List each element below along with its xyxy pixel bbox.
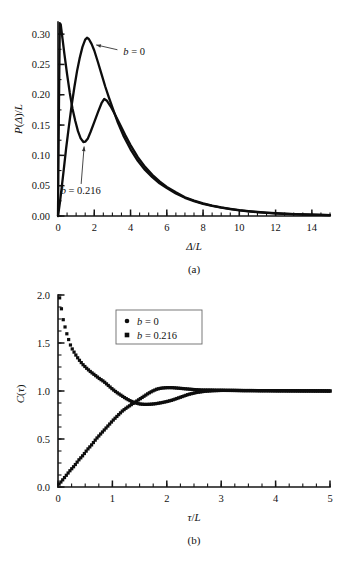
- data-marker: [328, 389, 331, 392]
- y-tick-label: 0.5: [37, 434, 50, 445]
- y-tick-label: 0.00: [32, 211, 50, 222]
- chart-panel-b: 012345 0.00.51.01.52.0 b = 0b = 0.216 τ/…: [0, 282, 346, 564]
- panel-a-y-axis-label: P(Δ)/L: [12, 104, 25, 135]
- y-tick-label: 1.5: [37, 338, 50, 349]
- x-tick-label: 6: [164, 222, 169, 233]
- x-tick-label: 4: [273, 493, 279, 504]
- y-tick-label: 0.30: [32, 29, 50, 40]
- annotation-label-1: b = 0.216: [61, 185, 101, 196]
- data-marker: [69, 343, 72, 346]
- panel-b-y-axis-label: C(τ): [14, 384, 27, 403]
- panel-a-annotations: b = 0b = 0.216: [61, 44, 145, 195]
- panel-b-y-tick-labels: 0.00.51.01.52.0: [37, 290, 50, 493]
- panel-b-x-axis-label: τ/L: [187, 511, 200, 523]
- y-tick-label: 0.0: [37, 482, 50, 493]
- x-tick-label: 5: [327, 493, 332, 504]
- figure-page: 02468101214 0.000.050.100.150.200.250.30…: [0, 0, 346, 564]
- y-tick-label: 0.05: [32, 180, 50, 191]
- data-marker: [72, 351, 75, 354]
- data-marker: [62, 318, 65, 321]
- y-tick-label: 0.15: [32, 120, 50, 131]
- annotation-label-0: b = 0: [123, 46, 145, 57]
- data-marker: [58, 296, 61, 299]
- x-tick-label: 0: [55, 222, 60, 233]
- x-tick-label: 8: [200, 222, 205, 233]
- legend-marker-circle-icon: [125, 319, 130, 324]
- legend-marker-square-icon: [125, 333, 130, 338]
- y-tick-label: 0.25: [32, 59, 50, 70]
- panel-a-y-tick-labels: 0.000.050.100.150.200.250.30: [32, 29, 50, 222]
- panel-a-caption: (a): [188, 263, 201, 276]
- y-tick-label: 2.0: [37, 290, 50, 301]
- x-tick-label: 2: [164, 493, 169, 504]
- x-tick-label: 14: [307, 222, 318, 233]
- x-tick-label: 12: [270, 222, 281, 233]
- data-marker: [67, 338, 70, 341]
- x-tick-label: 4: [128, 222, 134, 233]
- y-tick-label: 0.20: [32, 89, 50, 100]
- panel-b-caption: (b): [188, 534, 201, 547]
- annotation-leader-1: [81, 146, 84, 183]
- panel-a-x-axis-label: Δ/L: [185, 240, 202, 252]
- data-marker: [63, 325, 66, 328]
- x-tick-label: 2: [92, 222, 97, 233]
- x-tick-label: 1: [110, 493, 115, 504]
- x-tick-label: 10: [234, 222, 245, 233]
- panel-b-x-tick-labels: 012345: [55, 493, 332, 504]
- y-tick-label: 0.10: [32, 150, 50, 161]
- chart-panel-a: 02468101214 0.000.050.100.150.200.250.30…: [0, 0, 346, 282]
- data-marker: [60, 307, 63, 310]
- legend-label-0: b = 0: [137, 316, 159, 327]
- x-tick-label: 0: [55, 493, 60, 504]
- data-marker: [74, 353, 77, 356]
- panel-b-svg: 012345 0.00.51.01.52.0 b = 0b = 0.216 τ/…: [0, 282, 346, 564]
- data-marker: [71, 347, 74, 350]
- data-marker: [65, 332, 68, 335]
- series-markers-0: [57, 386, 331, 486]
- panel-a-x-tick-labels: 02468101214: [55, 222, 317, 233]
- y-tick-label: 1.0: [37, 386, 50, 397]
- x-tick-label: 3: [219, 493, 224, 504]
- panel-b-y-major-ticks: [58, 295, 65, 487]
- panel-b-legend: b = 0b = 0.216: [116, 310, 202, 344]
- panel-a-svg: 02468101214 0.000.050.100.150.200.250.30…: [0, 0, 346, 282]
- legend-label-1: b = 0.216: [137, 330, 177, 341]
